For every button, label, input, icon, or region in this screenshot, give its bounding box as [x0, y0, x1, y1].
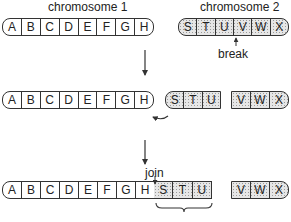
diagram-arrows — [0, 0, 291, 222]
brace-icon — [156, 203, 212, 212]
curved-join-arrow-icon — [153, 116, 168, 119]
